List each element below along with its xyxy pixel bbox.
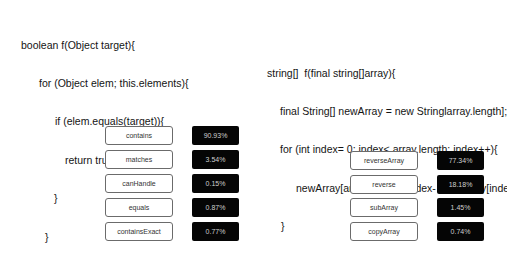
prediction-label: canHandle [105, 174, 173, 193]
prediction-probability: 0.77% [192, 222, 239, 241]
prediction-label: reverse [350, 175, 418, 194]
prediction-label: subArray [350, 198, 418, 217]
code-line: final String[] newArray = new Stringlarr… [267, 105, 507, 118]
prediction-probability: 90.93% [192, 126, 239, 145]
prediction-probability: 0.74% [437, 222, 484, 241]
prediction-label: copyArray [350, 222, 418, 241]
prediction-label: reverseArray [350, 151, 418, 170]
prediction-label: contains [105, 126, 173, 145]
code-line: boolean f(Object target){ [21, 39, 188, 52]
prediction-probability: 1.45% [437, 198, 484, 217]
prediction-probability: 0.15% [192, 174, 239, 193]
prediction-probability: 18.18% [437, 175, 484, 194]
code-line: string[] f(final string[]array){ [267, 67, 507, 80]
prediction-probability: 0.87% [192, 198, 239, 217]
prediction-label: equals [105, 198, 173, 217]
code-line: for (Object elem; this.elements){ [21, 77, 188, 90]
prediction-label: matches [105, 150, 173, 169]
prediction-probability: 77.34% [437, 151, 484, 170]
prediction-label: containsExact [105, 222, 173, 241]
prediction-probability: 3.54% [192, 150, 239, 169]
